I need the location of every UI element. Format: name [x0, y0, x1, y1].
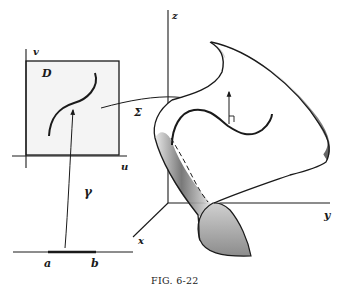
- interval-label-a: a: [44, 257, 51, 270]
- sigma-label: Σ: [133, 106, 142, 119]
- figure-caption: FIG. 6-22: [151, 275, 199, 286]
- x-axis-label: x: [137, 235, 145, 246]
- y-axis-label: y: [323, 209, 332, 222]
- u-axis-label: u: [121, 161, 128, 172]
- v-axis-label: v: [33, 46, 39, 57]
- surface-sigma: [154, 42, 330, 256]
- region-label-D: D: [41, 67, 52, 80]
- interval-label-b: b: [91, 257, 99, 270]
- x-axis: [133, 203, 168, 237]
- parameter-interval: a b: [13, 252, 133, 270]
- gamma-label: γ: [84, 185, 93, 199]
- domain-region-D: [26, 61, 119, 155]
- surface-bottom-cap: [198, 203, 251, 256]
- z-axis-label: z: [171, 10, 178, 21]
- figure-canvas: v D u a b γ Σ z y x: [0, 0, 345, 292]
